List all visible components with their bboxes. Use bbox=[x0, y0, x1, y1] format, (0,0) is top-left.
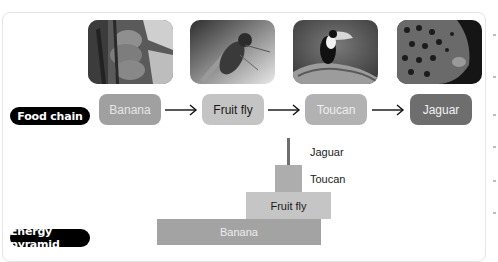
chain-item-toucan: Toucan bbox=[305, 94, 367, 125]
pyramid-level-jaguar bbox=[287, 138, 290, 165]
edge-mark bbox=[493, 146, 496, 148]
right-arrow-icon bbox=[267, 103, 301, 117]
pyramid-level-banana: Banana bbox=[157, 219, 321, 245]
banana-plant-photo bbox=[88, 20, 173, 84]
edge-mark bbox=[493, 180, 496, 182]
chain-item-jaguar: Jaguar bbox=[410, 94, 472, 125]
edge-mark bbox=[493, 212, 496, 214]
right-arrow-icon bbox=[371, 103, 405, 117]
pyramid-label-jaguar: Jaguar bbox=[310, 146, 344, 158]
jaguar-photo bbox=[397, 20, 482, 84]
fruit-fly-photo bbox=[190, 20, 275, 84]
energy-pyramid-label: Energy pyramid bbox=[10, 229, 90, 247]
chain-item-fruit-fly: Fruit fly bbox=[202, 94, 264, 125]
edge-mark bbox=[493, 76, 496, 78]
right-edge-strip bbox=[490, 0, 498, 248]
chain-item-banana: Banana bbox=[99, 94, 161, 125]
pyramid-level-toucan bbox=[275, 165, 302, 192]
edge-mark bbox=[493, 114, 496, 116]
pyramid-label-toucan: Toucan bbox=[310, 173, 345, 185]
toucan-photo bbox=[293, 20, 378, 84]
right-arrow-icon bbox=[164, 103, 198, 117]
food-chain-label: Food chain bbox=[10, 107, 90, 125]
pyramid-level-fruit-fly: Fruit fly bbox=[246, 192, 331, 219]
edge-mark bbox=[493, 34, 496, 36]
